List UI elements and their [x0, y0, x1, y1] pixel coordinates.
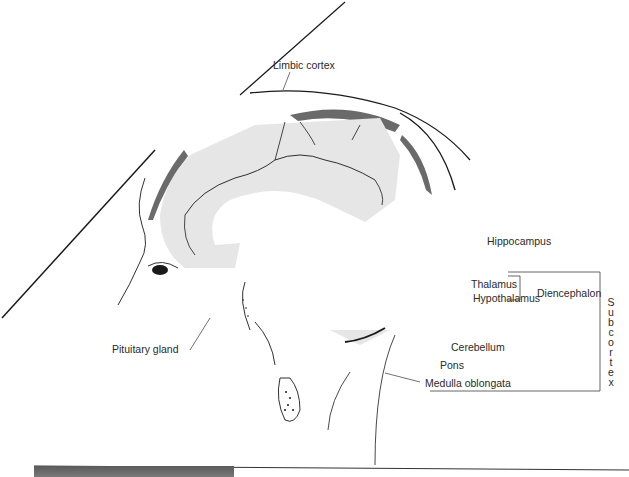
leader-limbic	[283, 72, 290, 90]
bottom-bar	[34, 466, 234, 477]
cortex-band-right	[400, 135, 432, 195]
section-line-left	[2, 150, 155, 318]
label-cerebellum: Cerebellum	[451, 341, 505, 353]
section-line-top	[240, 2, 345, 95]
cerebellum-region	[330, 330, 390, 345]
sphenoid-outline	[242, 282, 250, 330]
leader-medulla	[385, 373, 420, 382]
label-pons: Pons	[440, 359, 464, 371]
label-hypothalamus: Hypothalamus	[473, 292, 540, 304]
label-thalamus: Thalamus	[471, 278, 517, 290]
spinal-cord-line	[375, 335, 395, 465]
label-limbic-cortex: Limbic cortex	[273, 59, 335, 71]
label-subcortex: S u b c o r t e x	[606, 297, 616, 387]
label-medulla-oblongata: Medulla oblongata	[425, 377, 511, 389]
bone-dots	[242, 299, 294, 411]
vertebra-outline	[278, 378, 300, 421]
label-pituitary-gland: Pituitary gland	[112, 343, 179, 355]
leader-pituitary	[190, 318, 210, 350]
skull-base-curve	[255, 322, 275, 365]
eye-icon	[152, 265, 168, 275]
face-profile	[118, 178, 146, 305]
brain-diagram: Limbic cortex Hippocampus Thalamus Hypot…	[0, 0, 629, 477]
label-hippocampus: Hippocampus	[487, 235, 551, 247]
brainstem-curve-1	[328, 372, 350, 430]
label-diencephalon: Diencephalon	[537, 287, 601, 299]
